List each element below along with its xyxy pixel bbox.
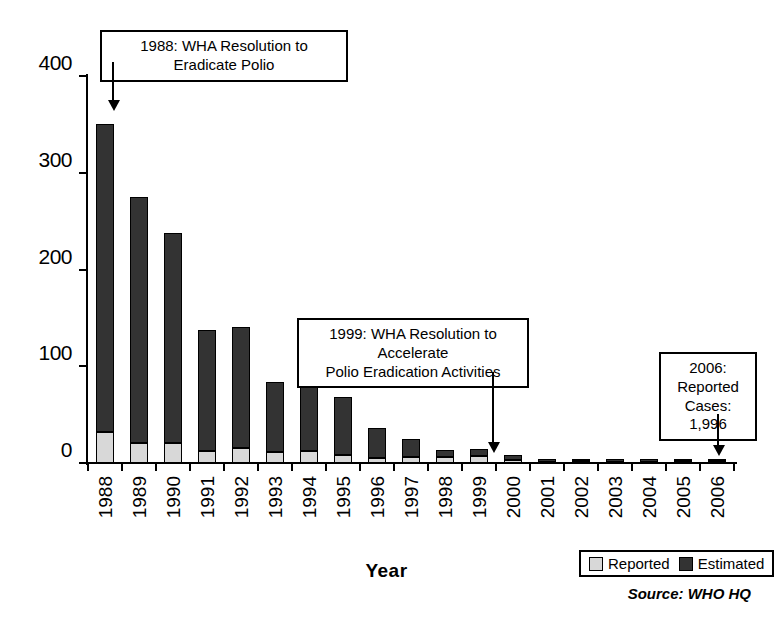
bar-segment-estimated <box>436 450 454 457</box>
x-tick-mark <box>291 462 293 471</box>
annotation-1999-box: 1999: WHA Resolution to Accelerate Polio… <box>297 318 529 388</box>
bar-segment-estimated <box>130 197 148 443</box>
bar-segment-reported <box>266 452 284 463</box>
x-tick-mark <box>631 462 633 471</box>
bar-segment-reported <box>470 456 488 463</box>
x-label-1988: 1988 <box>95 476 117 518</box>
bar-segment-estimated <box>266 382 284 453</box>
y-tick-label: 100 <box>0 341 72 365</box>
bar-segment-reported <box>130 443 148 463</box>
x-tick-mark <box>325 462 327 471</box>
x-label-1996: 1996 <box>367 476 389 518</box>
bar-1999 <box>470 449 488 463</box>
bar-segment-estimated <box>96 124 114 432</box>
bar-1996 <box>368 428 386 463</box>
bar-segment-estimated <box>334 397 352 455</box>
x-tick-mark <box>495 462 497 471</box>
x-tick-mark <box>597 462 599 471</box>
bar-segment-estimated <box>368 428 386 458</box>
x-tick-mark <box>223 462 225 471</box>
annotation-2006-arrow-head <box>713 445 725 456</box>
bar-1997 <box>402 439 420 463</box>
y-tick-label: 300 <box>0 147 72 171</box>
y-tick-mark <box>79 172 86 174</box>
x-tick-mark <box>257 462 259 471</box>
bar-2006 <box>708 459 726 463</box>
annotation-1999-arrow-head <box>488 442 500 453</box>
x-label-2003: 2003 <box>605 476 627 518</box>
bar-segment-reported <box>334 455 352 463</box>
bar-segment-reported <box>572 461 590 463</box>
bar-segment-estimated <box>402 439 420 457</box>
bar-2001 <box>538 459 556 463</box>
bar-1988 <box>96 124 114 463</box>
chart-legend: Reported Estimated <box>579 550 774 577</box>
x-label-1989: 1989 <box>129 476 151 518</box>
annotation-1988-box: 1988: WHA Resolution to Eradicate Polio <box>100 30 348 82</box>
annotation-1988-arrow-line <box>112 62 114 102</box>
x-tick-mark <box>189 462 191 471</box>
bar-segment-reported <box>674 461 692 463</box>
bar-segment-reported <box>436 457 454 463</box>
annotation-2006-arrow-line <box>717 414 719 447</box>
x-label-1993: 1993 <box>265 476 287 518</box>
bar-1994 <box>300 387 318 463</box>
x-tick-mark <box>427 462 429 471</box>
x-tick-mark <box>87 462 89 471</box>
y-tick-mark <box>79 462 86 464</box>
source-note: Source: WHO HQ <box>0 585 751 602</box>
x-tick-mark <box>155 462 157 471</box>
y-tick-mark <box>79 269 86 271</box>
bar-segment-reported <box>402 457 420 463</box>
bar-2004 <box>640 459 658 463</box>
y-tick-mark <box>79 75 86 77</box>
annotation-1999-arrow-line <box>492 372 494 444</box>
bar-segment-reported <box>504 460 522 463</box>
x-label-2005: 2005 <box>673 476 695 518</box>
x-label-1990: 1990 <box>163 476 185 518</box>
y-tick-mark <box>79 365 86 367</box>
bar-2003 <box>606 459 624 463</box>
bar-segment-estimated <box>164 233 182 443</box>
x-label-1999: 1999 <box>469 476 491 518</box>
bar-segment-reported <box>198 451 216 463</box>
bar-2002 <box>572 459 590 463</box>
x-tick-mark <box>563 462 565 471</box>
y-tick-label: 400 <box>0 51 72 75</box>
x-label-1998: 1998 <box>435 476 457 518</box>
bar-segment-reported <box>300 451 318 463</box>
x-tick-mark <box>665 462 667 471</box>
bar-segment-reported <box>640 461 658 463</box>
x-label-2000: 2000 <box>503 476 525 518</box>
bar-segment-estimated <box>470 449 488 456</box>
bar-segment-reported <box>538 461 556 463</box>
legend-label-estimated: Estimated <box>698 555 765 572</box>
x-tick-mark <box>733 462 735 471</box>
bar-segment-estimated <box>232 327 250 448</box>
x-tick-mark <box>529 462 531 471</box>
y-tick-label: 200 <box>0 244 72 268</box>
bar-segment-estimated <box>300 387 318 452</box>
x-label-2001: 2001 <box>537 476 559 518</box>
x-tick-mark <box>461 462 463 471</box>
bars-layer <box>88 76 734 463</box>
x-tick-mark <box>393 462 395 471</box>
legend-item-estimated: Estimated <box>679 555 765 572</box>
legend-item-reported: Reported <box>589 555 670 572</box>
x-tick-mark <box>121 462 123 471</box>
bar-segment-reported <box>164 443 182 463</box>
annotation-2006-box: 2006: Reported Cases: 1,996 <box>659 352 757 441</box>
bar-segment-reported <box>708 461 726 463</box>
legend-swatch-reported-icon <box>589 557 603 571</box>
bar-segment-reported <box>606 461 624 463</box>
bar-1995 <box>334 397 352 463</box>
x-label-1991: 1991 <box>197 476 219 518</box>
bar-1998 <box>436 450 454 463</box>
bar-1993 <box>266 382 284 463</box>
x-label-1997: 1997 <box>401 476 423 518</box>
x-label-1994: 1994 <box>299 476 321 518</box>
x-label-1992: 1992 <box>231 476 253 518</box>
y-tick-label: 0 <box>0 438 72 462</box>
bar-segment-reported <box>96 432 114 463</box>
x-label-2006: 2006 <box>707 476 729 518</box>
